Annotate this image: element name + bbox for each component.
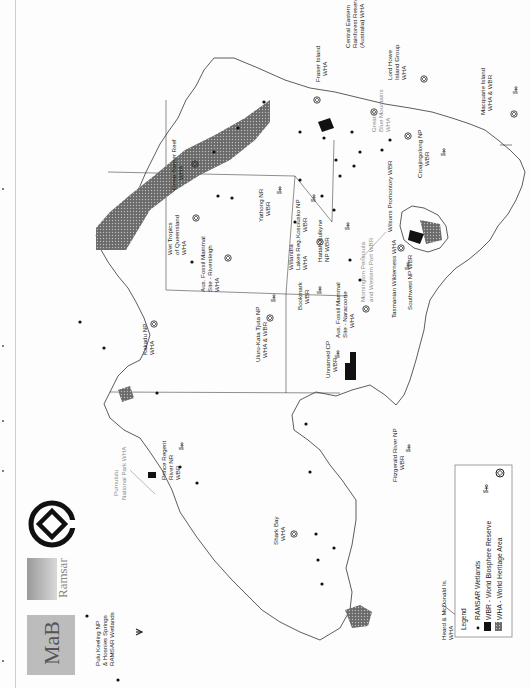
wha-emblem-icon — [225, 255, 231, 261]
mab-figure-icon — [317, 287, 322, 295]
mab-figure-icon — [277, 187, 282, 195]
svg-text:Croajingolong NPWBR: Croajingolong NPWBR — [416, 130, 430, 179]
svg-text:Shark BayWHA: Shark BayWHA — [272, 516, 286, 545]
wha-emblem-icon — [314, 97, 320, 103]
north-arrow-icon — [136, 629, 142, 635]
svg-text:Fraser IslandWHA: Fraser IslandWHA — [314, 45, 328, 82]
svg-text:Mornington Peninsulaand Wester: Mornington Peninsulaand Western Port WBR — [359, 237, 374, 302]
svg-text:RAMSAR Wetlands: RAMSAR Wetlands — [474, 560, 481, 620]
svg-text:PurnululuNational Park WHA: PurnululuNational Park WHA — [112, 446, 127, 500]
mab-figure-icon — [179, 443, 184, 451]
wha-emblem-icon — [267, 315, 273, 321]
svg-text:Tasmanian Wilderness WHA: Tasmanian Wilderness WHA — [390, 239, 397, 318]
unnamed-cp-area — [345, 352, 356, 380]
svg-text:Wilsons Promontory WBR: Wilsons Promontory WBR — [386, 160, 393, 232]
kosciusko-area — [318, 118, 334, 132]
svg-text:Fitzgerald River NPWBR: Fitzgerald River NPWBR — [391, 428, 405, 482]
svg-text:Uluru-Kata Tjuta NPWHA & WBR: Uluru-Kata Tjuta NPWHA & WBR — [254, 307, 268, 362]
svg-text:Hattah-KulkyneNP WBR: Hattah-KulkyneNP WBR — [316, 219, 330, 262]
svg-text:Pulu Keeling NP& Hosnies Sprin: Pulu Keeling NP& Hosnies SpringsRAMSAR W… — [94, 612, 115, 666]
map-page: MB — [0, 0, 531, 688]
legend-wha-swatch — [495, 622, 502, 631]
svg-text:Macquarie IslandWHA & WBR: Macquarie IslandWHA & WBR — [479, 67, 493, 115]
kakadu-area — [118, 386, 134, 402]
svg-text:MaB: MaB — [39, 621, 64, 665]
wha-emblem-icon — [193, 215, 199, 221]
svg-text:Lord HoweIsland GroupWHA: Lord HoweIsland GroupWHA — [386, 44, 407, 80]
svg-text:Aus. Fossil MammalSite - River: Aus. Fossil MammalSite - RiversleighWHA — [199, 236, 220, 292]
mab-figure-icon — [345, 223, 350, 231]
pulu-keeling-dot — [116, 678, 119, 681]
pulu-keeling-dot — [85, 614, 88, 617]
svg-text:WBR - World Biosphere Reserve: WBR - World Biosphere Reserve — [485, 521, 493, 620]
wha-emblem-icon — [421, 76, 427, 82]
svg-text:Ramsar: Ramsar — [55, 558, 70, 598]
svg-text:Central EasternRainforest Rese: Central EasternRainforest Reserves(Austr… — [344, 0, 365, 48]
ramsar-wetlands — [78, 100, 391, 585]
mab-logo: MaB — [27, 615, 75, 675]
mab-figure-icon — [441, 149, 446, 157]
svg-text:Yathong NRWBR: Yathong NRWBR — [257, 188, 271, 222]
ramsar-logo: Ramsar — [27, 558, 57, 600]
wha-emblem-icon — [291, 531, 297, 537]
world-heritage-emblem-icon — [28, 500, 76, 548]
map-labels: Great Barrier ReefWHA Wet Tropicsof Quee… — [94, 0, 518, 666]
wha-emblem-icon — [151, 321, 157, 327]
mab-figure-icon — [513, 87, 518, 95]
tasmanian-wilderness-area — [420, 220, 442, 244]
svg-text:WHA - World Heritage Area: WHA - World Heritage Area — [496, 537, 504, 620]
legend-wbr-swatch — [484, 622, 491, 631]
wha-emblem-icon — [405, 133, 411, 139]
mab-figure-icon — [271, 295, 276, 303]
svg-text:Legend: Legend — [460, 608, 468, 630]
legend: Legend RAMSAR Wetlands WBR - World Biosp… — [455, 465, 512, 637]
australia-map: MB — [0, 0, 531, 688]
wha-emblem-icon — [398, 245, 404, 251]
southwest-area — [408, 230, 424, 244]
svg-text:Unnamed CPWBR: Unnamed CPWBR — [324, 341, 338, 378]
svg-text:Wet Tropicsof QueenslandWHA: Wet Tropicsof QueenslandWHA — [166, 214, 187, 255]
mab-figure-icon — [335, 351, 340, 359]
mab-figure-icon — [406, 445, 411, 453]
svg-text:Kosciusko NPWBR: Kosciusko NPWBR — [294, 199, 308, 238]
svg-text:BookmarkWBR: BookmarkWBR — [296, 281, 310, 310]
svg-text:Prince RegentRiver NRWBR: Prince RegentRiver NRWBR — [160, 441, 181, 480]
wha-emblem-icon — [511, 111, 517, 117]
mab-figure-icon — [311, 195, 316, 203]
wha-emblem-icon — [363, 306, 369, 312]
svg-text:Aus. Fossil MammalSite - Narac: Aus. Fossil MammalSite - NaracoorteWHA — [334, 282, 355, 338]
prince-regent-area — [148, 472, 156, 478]
svg-text:Heard & McDonald Is.WHA: Heard & McDonald Is.WHA — [440, 579, 454, 640]
legend-ramsar-dot — [477, 627, 480, 630]
svg-text:Southwest NP WBR: Southwest NP WBR — [406, 254, 413, 310]
world-heritage-logo — [28, 500, 76, 548]
shark-bay-area — [345, 605, 372, 628]
